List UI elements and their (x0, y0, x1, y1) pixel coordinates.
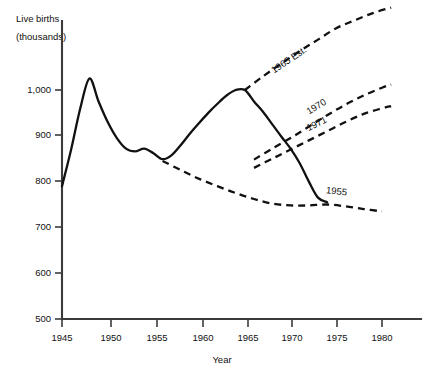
series-annotation-1970: 1970 (304, 96, 328, 117)
chart-canvas: Live births (thousands) 1,000 900 800 70… (0, 0, 438, 371)
x-axis-ticks (62, 319, 382, 327)
x-tick-label-1965: 1965 (237, 332, 258, 343)
x-tick-label-1945: 1945 (51, 332, 72, 343)
series-annotation-1955: 1955 (326, 184, 348, 197)
x-tick-label-1980: 1980 (371, 332, 392, 343)
series-annotation-1971: 1971 (305, 114, 329, 133)
x-tick-label-1955: 1955 (146, 332, 167, 343)
x-tick-label-1950: 1950 (100, 332, 121, 343)
y-tick-label-600: 600 (35, 267, 51, 278)
y-axis-title-line2: (thousands) (16, 31, 66, 42)
series-path-1965-est (245, 8, 391, 90)
series-annotation-1965-est: 1965 Est. (269, 44, 308, 76)
series-layer (62, 8, 391, 212)
series-path-1955-est (163, 161, 382, 211)
y-axis-title-line1: Live births (16, 13, 60, 24)
y-tick-label-700: 700 (35, 221, 51, 232)
y-tick-label-1000: 1,000 (27, 84, 51, 95)
series-label-layer: 19551965 Est.19701971 (269, 44, 348, 198)
x-tick-label-1970: 1970 (281, 332, 302, 343)
y-tick-label-800: 800 (35, 175, 51, 186)
x-tick-label-1975: 1975 (326, 332, 347, 343)
x-axis-tick-labels: 1945 1950 1955 1960 1965 1970 1975 1980 (51, 332, 392, 343)
y-axis-tick-labels: 1,000 900 800 700 600 500 (27, 84, 51, 324)
y-tick-label-500: 500 (35, 313, 51, 324)
y-tick-label-900: 900 (35, 129, 51, 140)
x-axis-title: Year (212, 354, 231, 365)
x-tick-label-1960: 1960 (192, 332, 213, 343)
live-births-line-chart: Live births (thousands) 1,000 900 800 70… (0, 0, 438, 371)
